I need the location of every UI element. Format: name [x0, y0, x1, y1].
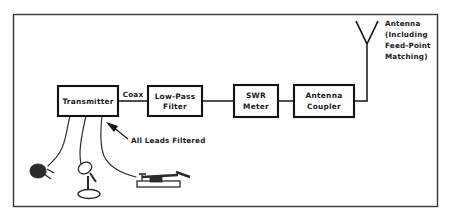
- all-leads-filtered-arrow: [106, 122, 128, 139]
- block-low-pass-filter-label-line2: Filter: [163, 102, 187, 111]
- power-plug-icon: [30, 164, 54, 179]
- block-transmitter-label: Transmitter: [62, 97, 113, 106]
- wire-coupler-to-antenna: [354, 44, 367, 101]
- telegraph-key-icon: [137, 172, 190, 187]
- block-swr-meter[interactable]: SWR Meter: [234, 85, 278, 117]
- diagram-canvas: Transmitter Low-Pass Filter SWR Meter An…: [0, 0, 451, 223]
- block-low-pass-filter[interactable]: Low-Pass Filter: [148, 86, 202, 116]
- rfi-block-diagram: Transmitter Low-Pass Filter SWR Meter An…: [0, 0, 451, 223]
- block-transmitter[interactable]: Transmitter: [58, 86, 118, 116]
- antenna-caption-line4: Matching): [385, 52, 428, 61]
- antenna-caption-line2: (Including: [385, 30, 428, 39]
- block-antenna-coupler-label-line1: Antenna: [306, 91, 343, 100]
- microphone-icon: [76, 160, 100, 199]
- cable-to-telegraph-key: [101, 116, 136, 177]
- antenna-caption-line3: Feed-Point: [385, 41, 431, 50]
- block-antenna-coupler[interactable]: Antenna Coupler: [294, 85, 354, 117]
- cable-to-power-plug: [48, 116, 70, 166]
- block-antenna-coupler-rect: [294, 85, 354, 117]
- block-antenna-coupler-label-line2: Coupler: [307, 102, 341, 111]
- block-swr-meter-rect: [234, 85, 278, 117]
- antenna-caption-line1: Antenna: [385, 19, 420, 28]
- coax-label: Coax: [123, 90, 144, 99]
- block-swr-meter-label-line2: Meter: [243, 102, 269, 111]
- dipole-antenna-icon: [356, 21, 378, 44]
- block-low-pass-filter-rect: [148, 86, 202, 116]
- antenna-caption: Antenna (Including Feed-Point Matching): [385, 19, 431, 61]
- block-low-pass-filter-label-line1: Low-Pass: [155, 92, 196, 101]
- all-leads-filtered-label: All Leads Filtered: [131, 136, 206, 145]
- block-swr-meter-label-line1: SWR: [246, 91, 266, 100]
